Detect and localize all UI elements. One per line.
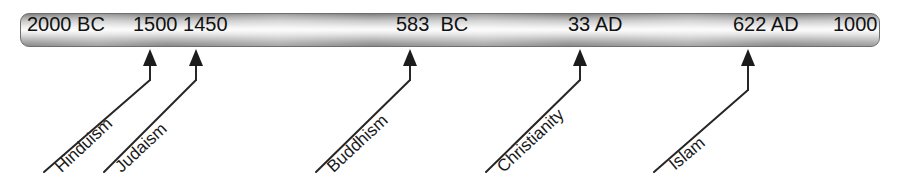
marker-label-buddhism: Buddhism (324, 111, 391, 175)
arrow-up-icon-hinduism (143, 49, 157, 66)
timeline-tick-label: 583 BC (396, 14, 468, 34)
marker-label-hinduism: Hinduism (52, 115, 115, 176)
timeline-tick-label: 2000 BC (27, 14, 105, 34)
marker-label-islam: Islam (666, 134, 708, 173)
arrow-up-icon-judaism (189, 49, 203, 66)
timeline-figure: 2000 BC 1500 1450 583 BC 33 AD 622 AD 10… (0, 0, 901, 194)
timeline-tick-label: 622 AD (733, 14, 799, 34)
arrow-up-icon-buddhism (403, 49, 417, 66)
timeline-tick-label: 1000 (833, 14, 878, 34)
marker-label-christianity: Christianity (494, 106, 567, 176)
timeline-tick-label: 33 AD (568, 14, 622, 34)
marker-label-judaism: Judaism (112, 120, 170, 176)
arrow-heads (143, 49, 755, 66)
arrow-up-icon-islam (741, 49, 755, 66)
arrow-up-icon-christianity (573, 49, 587, 66)
timeline-tick-label: 1500 1450 (133, 14, 228, 34)
